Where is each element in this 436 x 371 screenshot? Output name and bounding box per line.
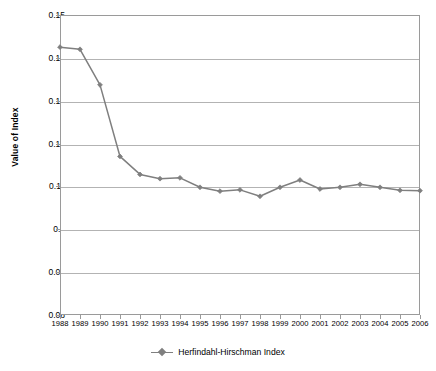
gridline — [61, 145, 419, 146]
x-axis-tick-label: 2000 — [292, 320, 309, 328]
x-axis-tick-mark — [260, 315, 261, 319]
x-axis-tick-mark — [240, 315, 241, 319]
x-axis-tick-label: 1989 — [72, 320, 89, 328]
x-axis-tick-mark — [60, 315, 61, 319]
x-axis-tick-mark — [180, 315, 181, 319]
gridline — [61, 230, 419, 231]
x-axis-tick-label: 1996 — [212, 320, 229, 328]
x-axis-tick-label: 2006 — [412, 320, 429, 328]
x-axis-tick-mark — [200, 315, 201, 319]
x-axis-tick-mark — [120, 315, 121, 319]
x-axis-tick-label: 1995 — [192, 320, 209, 328]
x-axis-tick-mark — [400, 315, 401, 319]
x-axis-tick-label: 1999 — [272, 320, 289, 328]
gridline — [61, 59, 419, 60]
x-axis-tick-mark — [420, 315, 421, 319]
x-axis-tick-label: 1994 — [172, 320, 189, 328]
x-axis-tick-mark — [320, 315, 321, 319]
plot-area — [60, 15, 420, 315]
x-axis-tick-label: 1991 — [112, 320, 129, 328]
legend-diamond-line-marker-icon — [151, 348, 173, 357]
x-axis-tick-mark — [280, 315, 281, 319]
x-axis-tick-label: 2005 — [392, 320, 409, 328]
x-axis-tick-mark — [360, 315, 361, 319]
gridline — [61, 102, 419, 103]
x-axis-tick-mark — [140, 315, 141, 319]
x-axis-tick-label: 2001 — [312, 320, 329, 328]
x-axis-tick-mark — [100, 315, 101, 319]
x-axis-tick-mark — [160, 315, 161, 319]
legend-entry-label: Herfindahl-Hirschman Index — [178, 347, 285, 357]
x-axis-tick-mark — [300, 315, 301, 319]
x-axis-tick-label: 2002 — [332, 320, 349, 328]
x-axis-tick-label: 2004 — [372, 320, 389, 328]
x-axis-tick-label: 2003 — [352, 320, 369, 328]
gridline — [61, 187, 419, 188]
line-chart: Value of Index 0.150.140.130.120.110.10.… — [0, 0, 436, 371]
x-axis-tick-label: 1993 — [152, 320, 169, 328]
x-axis-tick-mark — [80, 315, 81, 319]
x-axis-tick-label: 1997 — [232, 320, 249, 328]
x-axis-tick-mark — [220, 315, 221, 319]
x-axis-tick-label: 1992 — [132, 320, 149, 328]
gridline — [61, 273, 419, 274]
chart-legend: Herfindahl-Hirschman Index — [0, 347, 436, 357]
x-axis-tick-mark — [380, 315, 381, 319]
x-axis-tick-label: 1988 — [52, 320, 69, 328]
x-axis-tick-label: 1990 — [92, 320, 109, 328]
y-axis-title: Value of Index — [10, 82, 20, 192]
x-axis-tick-mark — [340, 315, 341, 319]
x-axis-tick-label: 1998 — [252, 320, 269, 328]
